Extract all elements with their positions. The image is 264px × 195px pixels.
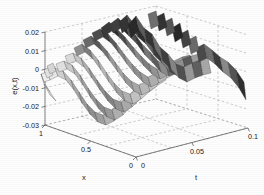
z-tick-label: -0.03: [23, 121, 39, 130]
t-axis-ticks: [136, 128, 250, 161]
t-tick-label: 0.05: [190, 147, 204, 156]
z-tick-label: 0.01: [25, 47, 39, 56]
t-tick-label: 0: [141, 161, 145, 170]
x-tick-label: 1: [39, 129, 43, 138]
figure-canvas: 0.02 0.01 0 -0.01 -0.02 -0.03 1 0.5 0 0 …: [0, 0, 264, 195]
z-tick-label: 0.02: [25, 28, 39, 37]
surface-plot: 0.02 0.01 0 -0.01 -0.02 -0.03 1 0.5 0 0 …: [0, 0, 264, 195]
z-tick-labels: 0.02 0.01 0 -0.01 -0.02 -0.03: [23, 28, 39, 130]
t-tick-label: 0.1: [248, 132, 258, 141]
x-tick-label: 0: [129, 161, 133, 170]
z-tick-label: -0.02: [23, 102, 39, 111]
z-axis-title: e(x,t): [10, 77, 19, 95]
z-tick-label: 0: [35, 65, 39, 74]
z-tick-label: -0.01: [23, 84, 39, 93]
t-axis-title: t: [195, 173, 198, 182]
x-tick-labels: 1 0.5 0: [39, 129, 133, 170]
surface-mesh: [41, 11, 246, 125]
x-axis-title: x: [82, 173, 86, 182]
x-tick-label: 0.5: [81, 145, 91, 154]
